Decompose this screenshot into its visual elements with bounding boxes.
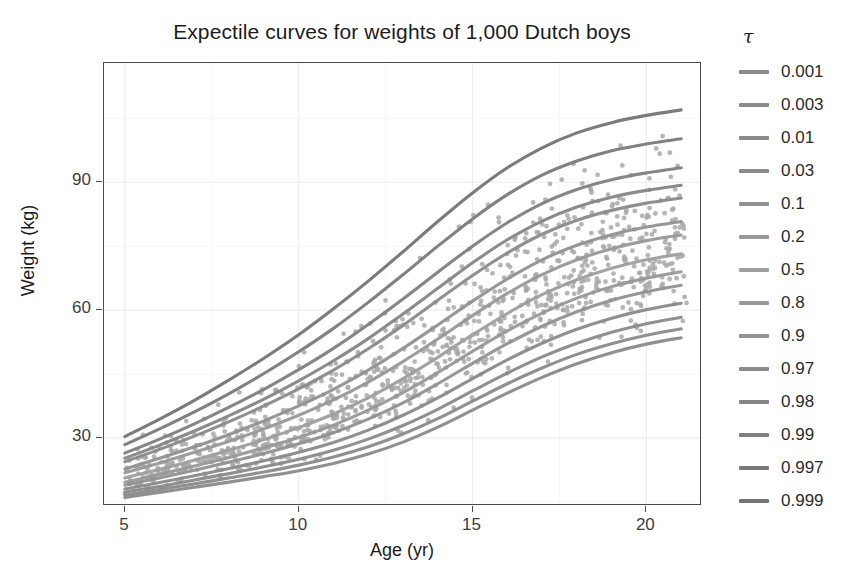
legend-key-line-icon	[739, 400, 769, 404]
x-tick-mark	[645, 506, 646, 512]
legend-entry[interactable]: 0.99	[731, 418, 857, 451]
x-tick-label: 5	[99, 515, 149, 535]
plot-panel	[103, 62, 701, 505]
legend-label: 0.997	[781, 459, 824, 476]
legend-entry[interactable]: 0.97	[731, 352, 857, 385]
legend-key-line-icon	[739, 499, 769, 503]
legend-key-line-icon	[739, 202, 769, 206]
y-tick-mark	[96, 437, 102, 438]
chart-figure: Expectile curves for weights of 1,000 Du…	[0, 0, 857, 583]
expectile-curves	[125, 110, 681, 498]
legend-key-line-icon	[739, 367, 769, 371]
legend-label: 0.999	[781, 492, 824, 509]
legend-key-line-icon	[739, 334, 769, 338]
legend-key-line-icon	[739, 433, 769, 437]
legend-key-line-icon	[739, 301, 769, 305]
legend-entry[interactable]: 0.8	[731, 286, 857, 319]
legend-entry[interactable]: 0.1	[731, 187, 857, 220]
x-tick-label: 15	[447, 515, 497, 535]
legend-label: 0.98	[781, 393, 814, 410]
legend-label: 0.8	[781, 294, 805, 311]
y-tick-label: 60	[47, 298, 91, 318]
legend: τ 0.0010.0030.010.030.10.20.50.80.90.970…	[731, 26, 857, 517]
legend-key-line-icon	[739, 466, 769, 470]
x-tick-mark	[124, 506, 125, 512]
legend-entry[interactable]: 0.01	[731, 121, 857, 154]
legend-label: 0.03	[781, 162, 814, 179]
legend-entry[interactable]: 0.98	[731, 385, 857, 418]
legend-entry[interactable]: 0.003	[731, 88, 857, 121]
gridlines-minor	[104, 63, 701, 505]
legend-key-line-icon	[739, 169, 769, 173]
x-tick-label: 20	[620, 515, 670, 535]
y-tick-label: 30	[47, 426, 91, 446]
y-tick-mark	[96, 181, 102, 182]
legend-label: 0.99	[781, 426, 814, 443]
x-tick-label: 10	[273, 515, 323, 535]
plot-area	[104, 63, 701, 505]
legend-entry[interactable]: 0.03	[731, 154, 857, 187]
legend-title: τ	[743, 26, 857, 46]
chart-title: Expectile curves for weights of 1,000 Du…	[103, 20, 701, 44]
legend-label: 0.97	[781, 360, 814, 377]
legend-entries: 0.0010.0030.010.030.10.20.50.80.90.970.9…	[731, 55, 857, 517]
y-tick-label: 90	[47, 170, 91, 190]
legend-entry[interactable]: 0.997	[731, 451, 857, 484]
legend-label: 0.9	[781, 327, 805, 344]
legend-key-line-icon	[739, 268, 769, 272]
legend-label: 0.003	[781, 96, 824, 113]
legend-key-line-icon	[739, 235, 769, 239]
y-tick-mark	[96, 309, 102, 310]
legend-entry[interactable]: 0.2	[731, 220, 857, 253]
legend-entry[interactable]: 0.9	[731, 319, 857, 352]
y-axis-title: Weight (kg)	[18, 161, 39, 341]
x-tick-mark	[298, 506, 299, 512]
x-tick-mark	[472, 506, 473, 512]
x-axis-title: Age (yr)	[103, 540, 701, 561]
legend-entry[interactable]: 0.999	[731, 484, 857, 517]
legend-label: 0.5	[781, 261, 805, 278]
legend-key-line-icon	[739, 70, 769, 74]
legend-key-line-icon	[739, 136, 769, 140]
legend-label: 0.2	[781, 228, 805, 245]
legend-entry[interactable]: 0.001	[731, 55, 857, 88]
gridlines-major	[104, 63, 701, 505]
legend-label: 0.01	[781, 129, 814, 146]
legend-label: 0.001	[781, 63, 824, 80]
legend-entry[interactable]: 0.5	[731, 253, 857, 286]
legend-label: 0.1	[781, 195, 805, 212]
legend-key-line-icon	[739, 103, 769, 107]
